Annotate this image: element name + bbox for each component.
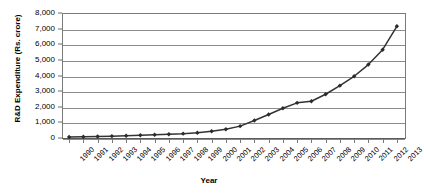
x-tick-mark: [83, 139, 84, 143]
x-tick-mark: [297, 139, 298, 143]
x-tick-mark: [126, 139, 127, 143]
data-point-marker: [295, 101, 299, 105]
y-tick-label: 8,000: [11, 9, 55, 17]
x-axis-title: Year: [0, 176, 418, 185]
data-series-line: [62, 13, 404, 138]
data-point-marker: [110, 134, 114, 138]
x-tick-mark: [69, 139, 70, 143]
data-point-marker: [95, 134, 99, 138]
x-tick-mark: [112, 139, 113, 143]
data-point-marker: [152, 133, 156, 137]
x-tick-mark: [354, 139, 355, 143]
y-tick-label: 5,000: [11, 56, 55, 64]
data-point-marker: [124, 134, 128, 138]
y-tick-label: 0: [11, 134, 55, 142]
data-point-marker: [209, 129, 213, 133]
x-tick-mark: [283, 139, 284, 143]
y-axis-tick-labels: 01,0002,0003,0004,0005,0006,0007,0008,00…: [14, 13, 58, 138]
x-tick-mark: [326, 139, 327, 143]
data-point-marker: [238, 124, 242, 128]
x-tick-label: 2011: [377, 145, 395, 163]
x-tick-mark: [311, 139, 312, 143]
x-tick-mark: [368, 139, 369, 143]
x-tick-mark: [269, 139, 270, 143]
data-point-marker: [224, 127, 228, 131]
x-tick-mark: [98, 139, 99, 143]
y-tick-label: 2,000: [11, 103, 55, 111]
y-tick-label: 1,000: [11, 118, 55, 126]
data-point-marker: [281, 106, 285, 110]
y-tick-label: 6,000: [11, 40, 55, 48]
y-tick-label: 3,000: [11, 87, 55, 95]
data-point-marker: [266, 112, 270, 116]
x-tick-mark: [212, 139, 213, 143]
data-point-marker: [195, 130, 199, 134]
y-tick-label: 7,000: [11, 25, 55, 33]
x-tick-mark: [254, 139, 255, 143]
x-tick-label: 2013: [406, 145, 424, 163]
x-tick-mark: [397, 139, 398, 143]
data-point-marker: [181, 131, 185, 135]
x-tick-mark: [140, 139, 141, 143]
x-tick-mark: [340, 139, 341, 143]
x-tick-mark: [197, 139, 198, 143]
x-tick-mark: [240, 139, 241, 143]
x-tick-mark: [383, 139, 384, 143]
x-tick-mark: [226, 139, 227, 143]
x-tick-mark: [169, 139, 170, 143]
data-point-marker: [252, 118, 256, 122]
data-point-marker: [138, 133, 142, 137]
series-polyline: [69, 26, 397, 137]
x-tick-mark: [155, 139, 156, 143]
y-tick-label: 4,000: [11, 72, 55, 80]
data-point-marker: [167, 132, 171, 136]
x-tick-mark: [183, 139, 184, 143]
